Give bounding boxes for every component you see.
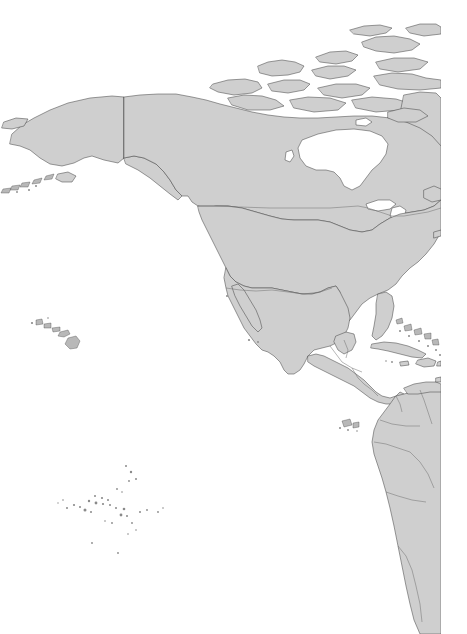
society-islands-islet: [79, 506, 81, 508]
lesser-antilles-islet: [391, 361, 393, 363]
bahamas-micro-islet: [427, 345, 429, 347]
bahamas-islet: [424, 333, 431, 339]
society-islands-islet: [66, 507, 68, 509]
lesser-antilles-islet: [385, 360, 387, 362]
pacific-islet: [104, 520, 106, 522]
pacific-islet: [123, 508, 126, 511]
galapagos-micro-islet: [347, 429, 349, 431]
revillagigedo-islet: [248, 339, 250, 341]
bahamas-micro-islet: [418, 340, 420, 342]
world-map-svg[interactable]: [0, 0, 467, 634]
line-islands-islet: [135, 478, 137, 480]
line-islands-islet: [125, 465, 127, 467]
pacific-islet: [162, 507, 164, 509]
line-islands-islet: [128, 480, 130, 482]
pacific-islet: [139, 511, 141, 513]
map-viewport[interactable]: [0, 0, 467, 634]
guadalupe-islet: [226, 295, 228, 297]
marquesas-islet: [116, 488, 118, 490]
pacific-islet: [135, 529, 137, 531]
bahamas-islet: [432, 339, 439, 345]
pacific-islet: [126, 515, 128, 517]
tuamotu-islet: [109, 504, 111, 506]
pacific-islet: [62, 499, 64, 501]
hawaii-molokai: [52, 327, 60, 332]
aleutian-micro-islet: [28, 189, 30, 191]
pacific-islet: [146, 509, 148, 511]
tuamotu-islet: [88, 500, 90, 502]
cook-islands-islet: [90, 511, 92, 513]
pacific-islet: [131, 522, 133, 524]
hawaii-micro-islet: [47, 317, 49, 319]
hawaii-oahu: [44, 323, 51, 328]
tuamotu-islet: [102, 503, 104, 505]
line-islands-islet: [130, 471, 132, 473]
pacific-islet: [91, 542, 93, 544]
aleutian-micro-islet: [35, 185, 37, 187]
marquesas-islet: [121, 491, 123, 493]
aleutian-micro-islet: [16, 191, 18, 193]
pitcairn-islet: [117, 552, 119, 554]
tuamotu-islet: [101, 497, 103, 499]
galapagos-islet: [353, 422, 359, 428]
galapagos-micro-islet: [339, 427, 341, 429]
revillagigedo-islet: [257, 341, 259, 343]
trinidad: [436, 377, 441, 382]
galapagos-micro-islet: [356, 430, 358, 432]
bahamas-micro-islet: [435, 349, 437, 351]
turks-caicos-islet: [439, 354, 441, 356]
society-islands-islet: [73, 504, 75, 506]
pacific-islet: [57, 502, 58, 503]
pacific-islet: [120, 514, 123, 517]
hawaii-niihau: [31, 322, 33, 324]
bahamas-micro-islet: [408, 335, 410, 337]
tuamotu-islet: [107, 499, 109, 501]
pacific-islet: [127, 533, 129, 535]
tuamotu-islet: [94, 495, 96, 497]
pacific-islet: [111, 522, 113, 524]
tuamotu-islet: [95, 502, 98, 505]
bahamas-micro-islet: [399, 330, 401, 332]
pacific-islet: [157, 511, 159, 513]
cook-islands-islet: [84, 509, 87, 512]
jamaica: [400, 361, 409, 366]
map-right-crop-mask: [441, 0, 467, 634]
hawaii-kauai: [36, 319, 43, 325]
pacific-islet: [115, 507, 117, 509]
